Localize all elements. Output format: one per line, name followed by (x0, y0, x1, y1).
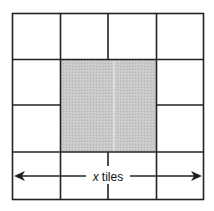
shaded-center-region (61, 60, 156, 152)
unit-label: tiles (102, 170, 123, 184)
measurement-label: xtiles (92, 170, 123, 184)
variable-x: x (92, 170, 100, 184)
tile-diagram: xtiles (0, 0, 214, 211)
